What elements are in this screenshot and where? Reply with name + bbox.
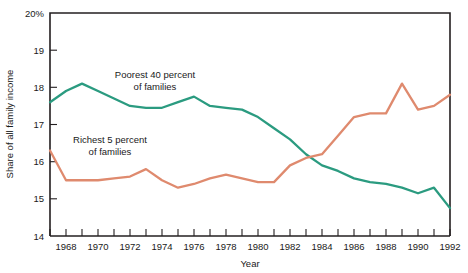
x-tick-label-1992: 1992: [439, 241, 460, 252]
annotation-poorest-line1: Poorest 40 percent: [115, 69, 196, 80]
x-axis-title: Year: [240, 258, 259, 269]
annotation-richest-line2: of families: [89, 146, 132, 157]
x-tick-label-1976: 1976: [183, 241, 204, 252]
x-tick-label-1978: 1978: [215, 241, 236, 252]
y-tick-label-15: 15: [33, 193, 44, 204]
annotation-poorest-line2: of families: [134, 81, 177, 92]
chart-figure: 20% 19 18 17 16 15 14: [0, 0, 468, 273]
x-tick-label-1972: 1972: [119, 241, 140, 252]
y-tick-label-19: 19: [33, 45, 44, 56]
x-tick-label-1990: 1990: [407, 241, 428, 252]
x-tick-label-1968: 1968: [55, 241, 76, 252]
x-tick-label-1970: 1970: [87, 241, 108, 252]
y-tick-label-20: 20%: [25, 8, 45, 19]
y-tick-label-16: 16: [33, 156, 44, 167]
x-tick-label-1984: 1984: [311, 241, 332, 252]
x-tick-label-1974: 1974: [151, 241, 172, 252]
x-tick-label-1982: 1982: [279, 241, 300, 252]
y-tick-label-18: 18: [33, 82, 44, 93]
chart-background: [0, 0, 468, 273]
annotation-richest-line1: Richest 5 percent: [73, 134, 147, 145]
x-tick-label-1988: 1988: [375, 241, 396, 252]
y-tick-label-14: 14: [33, 231, 44, 242]
line-chart: 20% 19 18 17 16 15 14: [0, 0, 468, 273]
x-tick-label-1980: 1980: [247, 241, 268, 252]
y-tick-label-17: 17: [33, 119, 44, 130]
y-axis-title: Share of all family income: [4, 70, 15, 179]
x-tick-label-1986: 1986: [343, 241, 364, 252]
